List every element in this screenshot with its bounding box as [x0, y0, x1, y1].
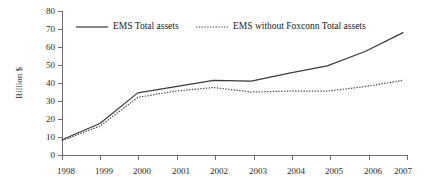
x-tick-label: 2004 [287, 166, 306, 176]
y-tick-label: 60 [46, 42, 56, 52]
x-tick-label: 2000 [133, 166, 152, 176]
x-tick-label: 2006 [364, 166, 383, 176]
x-tick-label: 2007 [394, 166, 413, 176]
line-chart: 80 70 60 50 40 30 20 10 0 Billion $ [0, 0, 424, 190]
legend-label-ems-total-assets: EMS Total assets [113, 21, 179, 31]
x-tick-label: 2001 [172, 166, 190, 176]
y-tick-label: 10 [46, 132, 56, 142]
x-tick-label: 1999 [95, 166, 114, 176]
x-tick-label: 2002 [210, 166, 228, 176]
y-tick-label: 50 [46, 60, 56, 70]
y-tick-label: 70 [46, 24, 56, 34]
y-axis-title: Billion $ [14, 67, 24, 99]
chart-figure: 80 70 60 50 40 30 20 10 0 Billion $ [0, 0, 424, 190]
x-tick-label: 2005 [325, 166, 344, 176]
y-tick-label: 80 [46, 6, 56, 16]
y-axis-tick-labels: 80 70 60 50 40 30 20 10 0 [46, 6, 56, 160]
y-tick-label: 20 [46, 114, 56, 124]
y-tick-label: 30 [46, 96, 56, 106]
legend-label-ems-without-foxconn: EMS without Foxconn Total assets [233, 21, 366, 31]
y-tick-label: 40 [46, 78, 56, 88]
x-tick-label: 1998 [57, 166, 76, 176]
x-tick-label: 2003 [249, 166, 268, 176]
y-tick-label: 0 [51, 150, 56, 160]
